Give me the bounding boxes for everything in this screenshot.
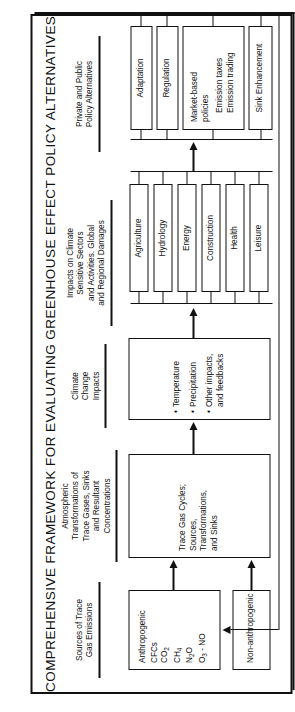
climate-impact-item: •Temperature bbox=[172, 343, 183, 413]
heading-line: Change bbox=[81, 344, 91, 428]
box-sector-agriculture: Agriculture bbox=[130, 184, 149, 292]
policy-tie-3 bbox=[261, 130, 262, 140]
sector-label: Construction bbox=[206, 187, 217, 289]
feedback-riser-to-anthropogenic bbox=[231, 629, 279, 630]
heading-line: Climate bbox=[71, 344, 81, 428]
sector-label: Leisure bbox=[254, 187, 265, 289]
figure-canvas: COMPREHENSIVE FRAMEWORK FOR EVALUATING G… bbox=[19, 0, 284, 712]
box-sector-energy: Energy bbox=[178, 184, 197, 292]
heading-line: Sources of Trace bbox=[75, 582, 85, 678]
climate-impact-item: •Precipitation bbox=[189, 343, 200, 413]
heading-policy: Private and Public Policy Alternatives bbox=[75, 36, 101, 152]
climate-impact-item-sub: and feedbacks bbox=[216, 343, 227, 413]
sector-tie-5 bbox=[259, 292, 260, 304]
trace-gas-line: Transformations, bbox=[200, 459, 211, 551]
sector-tie-4 bbox=[235, 292, 236, 304]
heading-line: Transformations of bbox=[71, 450, 81, 562]
gas-item: O3 - NO bbox=[198, 595, 211, 663]
gas-item: N2O bbox=[186, 595, 199, 663]
arrow-shaft-to-policy bbox=[193, 150, 195, 172]
heading-line: Gas Emissions bbox=[85, 582, 95, 678]
box-non-anthropogenic: Non-anthropogenic bbox=[233, 590, 271, 670]
box-climate-change-impacts: •Temperature •Precipitation •Other impac… bbox=[129, 338, 271, 420]
box-policy-regulation: Regulation bbox=[157, 26, 179, 130]
gas-item: CH4 bbox=[173, 595, 186, 663]
sector-bus-left bbox=[131, 303, 273, 304]
anthropogenic-title: Anthropogenic bbox=[138, 595, 149, 663]
policy-label: Sink Enhancement bbox=[255, 29, 266, 127]
heading-rule bbox=[105, 344, 107, 428]
arrow-head-to-sectors bbox=[189, 308, 197, 316]
sector-out-1 bbox=[163, 172, 164, 184]
arrow-head-to-policy bbox=[189, 142, 197, 150]
feedback-tie-market bbox=[213, 14, 214, 26]
policy-tie-1 bbox=[167, 130, 168, 140]
sector-label: Health bbox=[230, 187, 241, 289]
heading-rule bbox=[110, 200, 112, 326]
trace-gas-line: Sources, bbox=[189, 459, 200, 551]
heading-rule bbox=[116, 450, 118, 562]
heading-line: Trace Gases, Sinks bbox=[81, 450, 91, 562]
box-anthropogenic: Anthropogenic CFCs CO2 CH4 N2O O3 - NO bbox=[129, 590, 221, 670]
heading-line: Atmospheric bbox=[61, 450, 71, 562]
gas-item: CO2 bbox=[160, 595, 173, 663]
heading-line: Private and Public bbox=[75, 36, 85, 152]
sector-out-5 bbox=[259, 172, 260, 184]
policy-label: Market-based bbox=[190, 31, 201, 122]
heading-line: Impacts bbox=[91, 344, 101, 428]
box-trace-gas-cycles: Trace Gas Cycles; Sources, Transformatio… bbox=[129, 454, 271, 558]
sector-out-2 bbox=[187, 172, 188, 184]
policy-label: Adaptation bbox=[136, 29, 147, 127]
sector-out-3 bbox=[211, 172, 212, 184]
trace-gas-line: and Sinks bbox=[210, 459, 221, 551]
policy-subitem: Emission taxes bbox=[216, 31, 227, 122]
sector-label: Hydrology bbox=[158, 187, 169, 289]
heading-line: Policy Alternatives bbox=[85, 36, 95, 152]
climate-impact-item: •Other impacts, bbox=[206, 343, 217, 413]
feedback-return-line bbox=[279, 13, 280, 630]
sector-tie-0 bbox=[139, 292, 140, 304]
gas-item: CFCs bbox=[150, 595, 161, 663]
figure-border: COMPREHENSIVE FRAMEWORK FOR EVALUATING G… bbox=[31, 14, 284, 694]
policy-bus-left bbox=[131, 139, 273, 140]
sector-bus-right bbox=[131, 171, 273, 172]
feedback-tie-regulation bbox=[167, 14, 168, 26]
sector-out-4 bbox=[235, 172, 236, 184]
heading-line: Sensitive Sectors bbox=[76, 200, 86, 326]
heading-line: and Regional Damages bbox=[97, 200, 107, 326]
anthropogenic-gas-list: CFCs CO2 CH4 N2O O3 - NO bbox=[150, 595, 211, 663]
sector-out-0 bbox=[139, 172, 140, 184]
policy-label-cont: policies bbox=[201, 31, 212, 122]
box-sector-construction: Construction bbox=[202, 184, 221, 292]
heading-rule bbox=[98, 36, 100, 152]
heading-line: Impacts on Climate bbox=[66, 200, 76, 326]
trace-gas-line: Trace Gas Cycles; bbox=[178, 459, 189, 551]
feedback-arrow-head bbox=[223, 626, 231, 634]
policy-tie-0 bbox=[141, 130, 142, 140]
figure-title: COMPREHENSIVE FRAMEWORK FOR EVALUATING G… bbox=[43, 16, 58, 692]
policy-tie-2 bbox=[213, 130, 214, 140]
box-policy-adaptation: Adaptation bbox=[131, 26, 153, 130]
arrow-shaft-to-sectors bbox=[193, 316, 195, 338]
heading-climate: Climate Change Impacts bbox=[71, 344, 107, 428]
box-sector-leisure: Leisure bbox=[250, 184, 269, 292]
feedback-bus-right bbox=[141, 13, 279, 14]
heading-sources: Sources of Trace Gas Emissions bbox=[75, 582, 101, 678]
heading-rule bbox=[98, 582, 100, 678]
box-policy-sink-enhancement: Sink Enhancement bbox=[249, 26, 273, 130]
feedback-tie-adaptation bbox=[141, 14, 142, 26]
arrow-shaft-to-climate bbox=[193, 430, 195, 454]
sector-tie-1 bbox=[163, 292, 164, 304]
arrow-head-to-climate bbox=[189, 422, 197, 430]
arrow-head-non-anthropogenic bbox=[247, 560, 255, 568]
sector-tie-3 bbox=[211, 292, 212, 304]
arrow-head-anthropogenic bbox=[169, 560, 177, 568]
heading-line: Concentrations bbox=[102, 450, 112, 562]
policy-subitem: Emission trading bbox=[226, 31, 237, 122]
heading-line: and Activities. Global bbox=[86, 200, 96, 326]
heading-atmospheric: Atmospheric Transformations of Trace Gas… bbox=[61, 450, 118, 562]
policy-label: Regulation bbox=[162, 29, 173, 127]
sector-tie-2 bbox=[187, 292, 188, 304]
arrow-shaft-non-anthropogenic bbox=[251, 568, 253, 590]
sector-label: Agriculture bbox=[134, 187, 145, 289]
